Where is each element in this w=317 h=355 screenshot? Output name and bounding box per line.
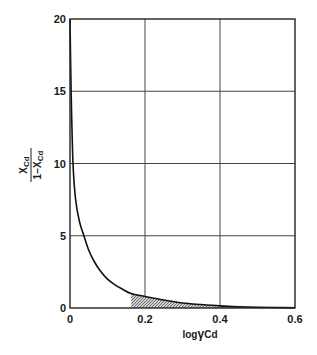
y-label-denominator-sub: Cd xyxy=(36,151,45,162)
grid-lines xyxy=(70,19,295,308)
y-label-denominator: 1−X xyxy=(32,161,43,179)
y-tick-label: 5 xyxy=(60,230,66,242)
chart: 0 0.2 0.4 0.6 0 5 10 15 20 XCd 1−XCd log… xyxy=(0,0,317,355)
x-label-sub: Cd xyxy=(204,329,217,340)
x-tick-label: 0.6 xyxy=(287,313,302,325)
x-tick-label: 0.4 xyxy=(212,313,228,325)
y-tick-label: 15 xyxy=(54,85,66,97)
y-axis-label: XCd 1−XCd xyxy=(18,148,45,182)
x-axis-label: logγCd xyxy=(182,327,217,341)
x-tick-labels: 0 0.2 0.4 0.6 xyxy=(67,313,303,325)
svg-text:XCd: XCd xyxy=(18,156,31,173)
x-tick-label: 0 xyxy=(67,313,73,325)
svg-text:1−XCd: 1−XCd xyxy=(32,151,45,180)
y-tick-labels: 0 5 10 15 20 xyxy=(54,13,66,314)
y-tick-label: 10 xyxy=(54,158,66,170)
y-tick-label: 0 xyxy=(60,302,66,314)
x-tick-label: 0.2 xyxy=(137,313,152,325)
y-label-numerator-sub: Cd xyxy=(22,156,31,167)
x-label-log: log xyxy=(182,329,197,340)
y-tick-label: 20 xyxy=(54,13,66,25)
